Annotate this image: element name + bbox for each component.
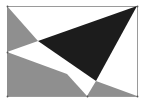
vertex-dot [7,96,9,98]
vertex-dot [137,96,139,98]
vertex-dot [87,96,89,98]
vertex-dot [7,52,9,54]
shaded-regions [7,6,137,96]
gray-top-left-triangle [7,6,38,52]
geometry-diagram [0,0,146,105]
gray-bottom-right-triangle [87,81,137,96]
vertex-dot [7,6,9,8]
vertex-dot [137,6,139,8]
